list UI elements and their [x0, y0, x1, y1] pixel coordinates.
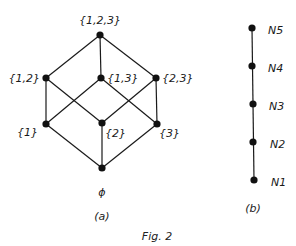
label-n2: N2: [270, 138, 285, 151]
label-n5: N5: [268, 24, 283, 37]
label-n1: N1: [271, 176, 286, 189]
label-12: {1,2}: [9, 72, 41, 85]
label-3: {3}: [159, 127, 180, 140]
node-n2: [249, 138, 256, 145]
node-n5: [248, 24, 255, 31]
node-13: [97, 74, 104, 81]
node-n1: [250, 176, 257, 183]
edge-23-3: [156, 78, 157, 124]
label-1: {1}: [17, 126, 38, 139]
figure-caption: Fig. 2: [142, 230, 172, 243]
label-23: {2,3}: [162, 72, 194, 85]
node-n3: [249, 100, 256, 107]
diagram-svg: {1,2,3} {1,2} {1,3} {2,3} {1} {2} {3} ϕ …: [0, 0, 296, 246]
edge-123-12: [46, 35, 100, 78]
node-2: [98, 119, 105, 126]
node-n4: [248, 62, 255, 69]
panel-a-label: (a): [94, 210, 109, 223]
node-123: [96, 31, 103, 38]
label-2: {2}: [105, 127, 126, 140]
panel-b-label: (b): [245, 202, 261, 215]
node-1: [42, 120, 49, 127]
panel-b-chain: N5 N4 N3 N2 N1 (b): [245, 24, 286, 215]
edge-123-13: [100, 35, 101, 78]
label-n3: N3: [269, 100, 284, 113]
label-n4: N4: [268, 62, 283, 75]
label-123: {1,2,3}: [79, 14, 121, 27]
figure-2: {1,2,3} {1,2} {1,3} {2,3} {1} {2} {3} ϕ …: [0, 0, 296, 246]
node-12: [42, 74, 49, 81]
node-empty: [98, 164, 105, 171]
label-13: {1,3}: [107, 72, 139, 85]
label-empty-set: ϕ: [98, 186, 105, 199]
panel-a-lattice: {1,2,3} {1,2} {1,3} {2,3} {1} {2} {3} ϕ …: [9, 14, 194, 223]
edge-1-empty: [46, 124, 102, 168]
node-23: [152, 74, 159, 81]
